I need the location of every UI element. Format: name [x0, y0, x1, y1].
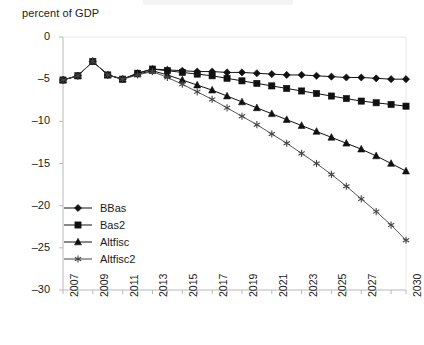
- x-tick-label: 2009: [98, 274, 110, 297]
- x-tick-label: 2017: [217, 274, 229, 297]
- legend-item-altfisc2[interactable]: Altfisc2: [62, 250, 182, 267]
- legend-marker-asterisk-icon: [62, 252, 94, 266]
- y-tick-label: –30: [22, 283, 50, 295]
- legend-marker-diamond-icon: [62, 201, 94, 215]
- plot-area: [0, 0, 424, 345]
- x-tick-label: 2025: [336, 274, 348, 297]
- x-tick-label: 2007: [68, 274, 80, 297]
- x-tick-label: 2013: [157, 274, 169, 297]
- legend-label: Altfisc2: [100, 253, 135, 265]
- x-tick-marks: [63, 290, 406, 294]
- x-tick-label: 2011: [128, 274, 140, 297]
- legend-label: BBas: [100, 202, 126, 214]
- x-tick-label: 2021: [277, 274, 289, 297]
- y-tick-label: 0: [22, 30, 50, 42]
- chart-figure: percent of GDP 0–5–10–15–20–25–30 200720…: [0, 0, 424, 345]
- x-tick-label: 2015: [187, 274, 199, 297]
- x-tick-label: 2030: [411, 274, 423, 297]
- x-tick-label: 2027: [366, 274, 378, 297]
- x-tick-label: 2019: [247, 274, 259, 297]
- y-tick-label: –5: [22, 72, 50, 84]
- legend-marker-square-icon: [62, 218, 94, 232]
- y-tick-label: –10: [22, 114, 50, 126]
- y-tick-label: –15: [22, 157, 50, 169]
- legend-item-bbas[interactable]: BBas: [62, 199, 182, 216]
- legend-marker-triangle-icon: [62, 235, 94, 249]
- y-tick-label: –20: [22, 199, 50, 211]
- x-tick-label: 2023: [307, 274, 319, 297]
- series-bas2: [60, 58, 409, 109]
- chart-legend: BBasBas2AltfiscAltfisc2: [62, 199, 182, 267]
- legend-label: Altfisc: [100, 236, 129, 248]
- legend-item-altfisc[interactable]: Altfisc: [62, 233, 182, 250]
- legend-item-bas2[interactable]: Bas2: [62, 216, 182, 233]
- series-altfisc: [60, 58, 410, 174]
- y-tick-label: –25: [22, 241, 50, 253]
- legend-label: Bas2: [100, 219, 125, 231]
